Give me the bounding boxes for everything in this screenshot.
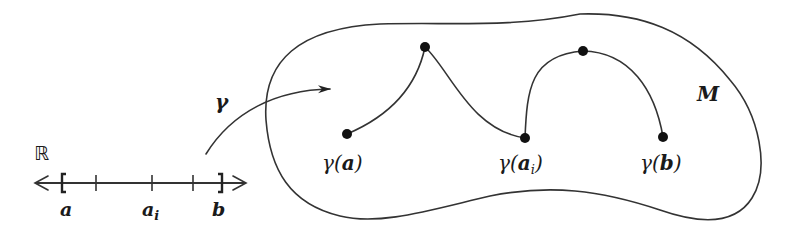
label-gamma-a: γ(a) xyxy=(322,151,363,175)
manifold-boundary xyxy=(266,14,761,220)
label-a: a xyxy=(60,198,72,220)
label-gamma-b: γ(b) xyxy=(640,151,682,175)
map-arrow: γ xyxy=(206,89,330,154)
curve-on-manifold-diagram: ℝ a ai b γ M γ(a) γ(ai) γ(b) xyxy=(0,0,799,237)
point-intermediate-2 xyxy=(578,46,588,56)
manifold-label: M xyxy=(696,82,720,106)
point-intermediate-1 xyxy=(420,42,430,52)
point-gamma-a xyxy=(342,129,352,139)
reals-symbol: ℝ xyxy=(34,142,49,164)
gamma-curve xyxy=(347,47,663,138)
real-line: ℝ a ai b xyxy=(34,142,246,223)
label-gamma-ai: γ(ai) xyxy=(498,151,543,177)
point-gamma-ai xyxy=(520,133,530,143)
manifold: M γ(a) γ(ai) γ(b) xyxy=(266,14,761,220)
point-gamma-b xyxy=(658,132,668,142)
gamma-label: γ xyxy=(215,90,229,114)
label-ai: ai xyxy=(142,198,159,223)
label-b: b xyxy=(212,198,225,220)
